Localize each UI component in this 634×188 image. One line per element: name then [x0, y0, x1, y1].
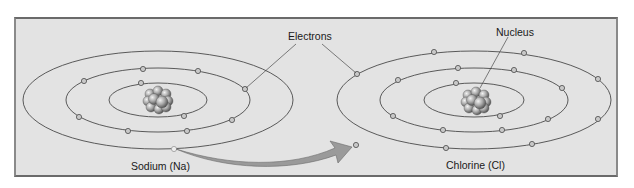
- nucleus-leader: [480, 37, 508, 88]
- ionic-bond-diagram: [0, 0, 634, 188]
- electrons-leader-left: [246, 44, 296, 88]
- chlorine-nucleus-icon: [461, 87, 491, 115]
- sodium-atom: [23, 51, 293, 152]
- electron-transfer-arrow: [176, 141, 352, 166]
- electrons-label: Electrons: [288, 30, 332, 42]
- electrons-leader-right: [322, 44, 356, 73]
- nucleus-label: Nucleus: [496, 26, 534, 38]
- sodium-label: Sodium (Na): [131, 160, 190, 172]
- sodium-nucleus-icon: [143, 86, 173, 114]
- chlorine-label: Chlorine (Cl): [446, 159, 505, 171]
- chlorine-atom: [337, 49, 611, 150]
